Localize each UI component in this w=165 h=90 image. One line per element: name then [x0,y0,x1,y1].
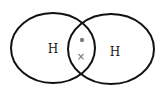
h2-dot-cross-diagram: H H × [0,0,165,90]
right-atom-label: H [110,45,120,59]
electron-cross-icon: × [77,51,85,62]
electron-dot-icon [80,38,84,42]
left-atom-label: H [48,42,58,56]
